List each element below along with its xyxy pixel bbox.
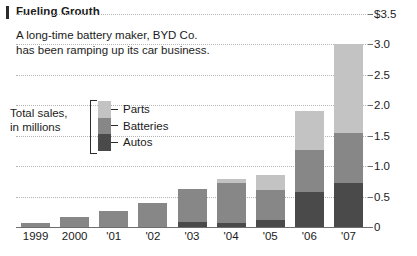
legend-item-batteries: Batteries [111,118,168,135]
y-axis-tick [368,227,373,228]
legend-swatch-autos [98,134,111,151]
y-axis-tick [368,197,373,198]
legend-swatch-stack [98,101,111,151]
title-accent-bar [6,6,9,19]
bar-segment-batteries [178,189,207,221]
x-axis-label: '07 [341,230,356,242]
x-axis-label: '06 [302,230,317,242]
x-axis-label: '04 [224,230,239,242]
gridline [16,44,368,45]
bar-02 [138,203,167,227]
bar-segment-batteries [60,217,89,227]
legend-leader-line [111,109,118,110]
y-axis-label: 0.5 [374,191,390,203]
legend-caption-line-1: Total sales, [10,106,68,120]
bar-03 [178,189,207,227]
y-axis-label: 1.0 [374,160,390,172]
y-axis-label: 0 [374,221,380,233]
bar-07 [334,44,363,227]
legend-item-label: Autos [123,136,152,148]
legend-bracket [90,100,97,154]
x-axis-label: '03 [185,230,200,242]
y-axis-tick [368,14,373,15]
bar-04 [217,179,246,227]
x-axis-label: 1999 [23,230,49,242]
y-axis-label: $3.5 [374,8,396,20]
x-axis-label: '05 [263,230,278,242]
y-axis-label: 3.0 [374,38,390,50]
x-axis-label: '02 [145,230,160,242]
bar-segment-batteries [334,133,363,183]
legend-swatch-batteries [98,118,111,135]
legend-caption: Total sales, in millions [10,106,68,134]
y-axis-label: 1.5 [374,130,390,142]
bar-segment-batteries [295,150,324,192]
legend-leader-line [111,125,118,126]
y-axis-tick [368,105,373,106]
gridline [16,75,368,76]
bar-segment-batteries [138,203,167,227]
chart-legend: Total sales, in millions PartsBatteriesA… [10,100,170,152]
y-axis-label: 2.5 [374,69,390,81]
legend-caption-line-2: in millions [10,120,68,134]
x-axis-label: '01 [106,230,121,242]
bar-01 [99,211,128,227]
legend-leader-line [111,142,118,143]
bar-segment-batteries [256,190,285,220]
bar-segment-autos [295,192,324,227]
y-axis-label: 2.0 [374,99,390,111]
legend-item-label: Batteries [123,120,168,132]
y-axis-tick [368,44,373,45]
y-axis-tick [368,166,373,167]
axis-baseline [16,227,368,228]
x-axis-label: 2000 [62,230,88,242]
bar-06 [295,111,324,227]
bar-2000 [60,217,89,227]
bar-segment-parts [334,44,363,132]
bar-segment-autos [256,220,285,227]
legend-item-autos: Autos [111,134,152,151]
bar-segment-batteries [217,183,246,223]
bar-05 [256,175,285,227]
bar-segment-parts [295,111,324,149]
legend-swatch-parts [98,101,111,118]
y-axis-tick [368,136,373,137]
bar-segment-batteries [99,211,128,227]
bar-segment-parts [256,175,285,190]
legend-item-parts: Parts [111,101,150,118]
legend-item-label: Parts [123,103,150,115]
bar-segment-autos [334,183,363,227]
gridline [16,14,368,15]
y-axis-tick [368,75,373,76]
